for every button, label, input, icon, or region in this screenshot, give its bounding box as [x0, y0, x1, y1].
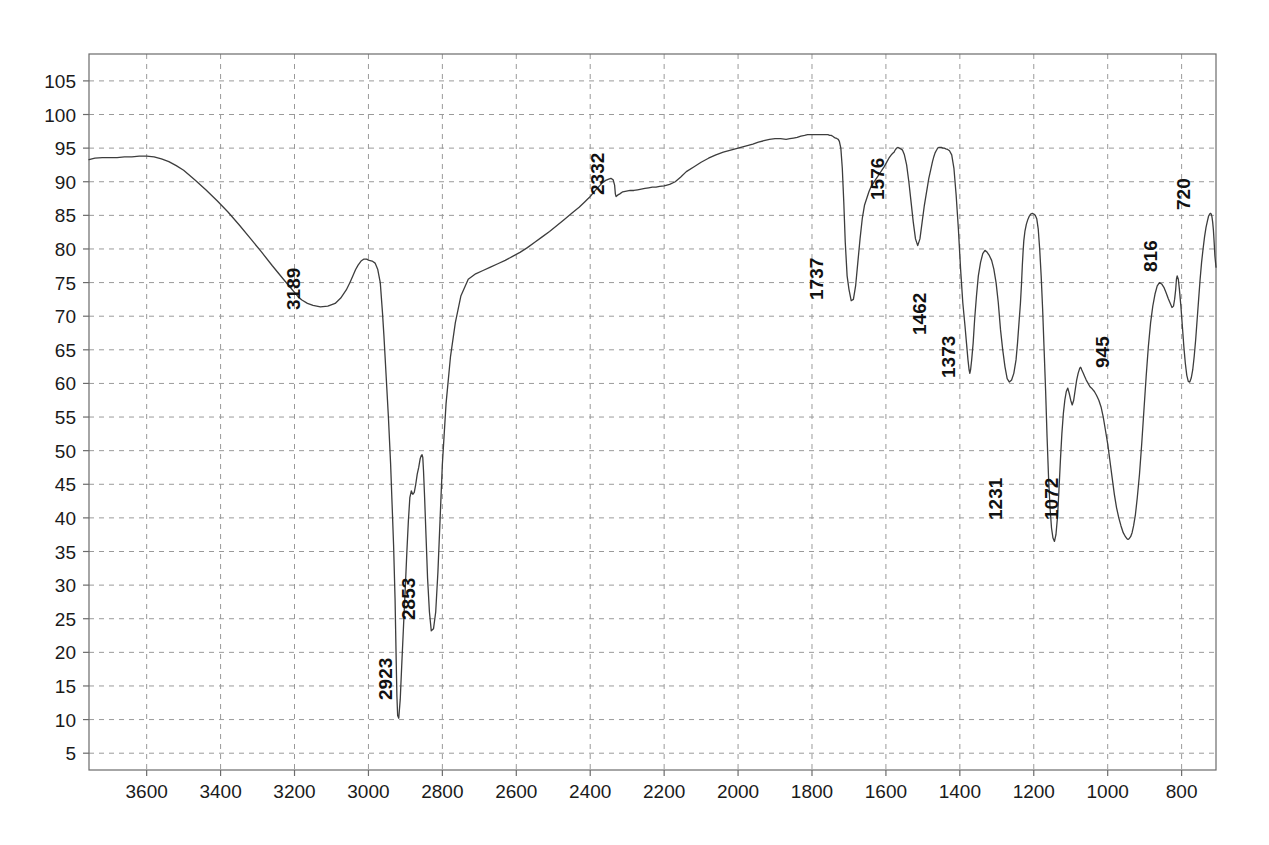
x-tick-label: 1400	[939, 781, 981, 802]
peak-label-816: 816	[1140, 240, 1161, 272]
y-tick-label: 20	[55, 642, 76, 663]
x-tick-label: 800	[1166, 781, 1198, 802]
peak-label-945: 945	[1092, 336, 1113, 368]
x-tick-label: 1600	[865, 781, 907, 802]
peak-label-2853: 2853	[398, 578, 419, 620]
y-tick-label: 60	[55, 373, 76, 394]
y-tick-label: 35	[55, 542, 76, 563]
x-tick-label: 1200	[1013, 781, 1055, 802]
y-tick-label: 75	[55, 273, 76, 294]
y-tick-label: 45	[55, 474, 76, 495]
y-tick-label: 25	[55, 609, 76, 630]
peak-label-1576: 1576	[867, 158, 888, 200]
y-tick-label: 50	[55, 441, 76, 462]
y-tick-label: 40	[55, 508, 76, 529]
y-tick-label: 65	[55, 340, 76, 361]
y-tick-label: 70	[55, 306, 76, 327]
x-tick-label: 2000	[717, 781, 759, 802]
y-tick-label: 5	[65, 743, 76, 764]
ir-spectrum-chart: 3600340032003000280026002400220020001800…	[0, 0, 1269, 845]
y-tick-label: 15	[55, 676, 76, 697]
x-tick-label: 2200	[643, 781, 685, 802]
peak-label-720: 720	[1173, 178, 1194, 210]
peak-label-2923: 2923	[375, 658, 396, 700]
y-tick-label: 30	[55, 575, 76, 596]
peak-label-1462: 1462	[909, 293, 930, 335]
x-tick-label: 3200	[273, 781, 315, 802]
ir-spectrum-page: 3600340032003000280026002400220020001800…	[0, 0, 1269, 845]
peak-label-2332: 2332	[587, 153, 608, 195]
peak-label-1072: 1072	[1041, 478, 1062, 520]
y-tick-label: 80	[55, 239, 76, 260]
y-tick-label: 105	[44, 71, 76, 92]
peak-label-1737: 1737	[806, 258, 827, 300]
y-tick-label: 95	[55, 138, 76, 159]
peak-label-1373: 1373	[938, 336, 959, 378]
peak-label-1231: 1231	[985, 477, 1006, 520]
x-tick-label: 3600	[126, 781, 168, 802]
x-tick-label: 2400	[569, 781, 611, 802]
x-tick-label: 2600	[495, 781, 537, 802]
y-tick-label: 85	[55, 205, 76, 226]
chart-background	[0, 0, 1269, 845]
x-axis-tick-labels: 3600340032003000280026002400220020001800…	[126, 781, 1198, 802]
y-tick-label: 10	[55, 710, 76, 731]
x-tick-label: 1000	[1087, 781, 1129, 802]
peak-label-3189: 3189	[283, 268, 304, 310]
y-tick-label: 100	[44, 105, 76, 126]
x-tick-label: 3400	[199, 781, 241, 802]
x-tick-label: 3000	[347, 781, 389, 802]
y-tick-label: 55	[55, 407, 76, 428]
x-tick-label: 2800	[421, 781, 463, 802]
x-tick-label: 1800	[791, 781, 833, 802]
y-tick-label: 90	[55, 172, 76, 193]
